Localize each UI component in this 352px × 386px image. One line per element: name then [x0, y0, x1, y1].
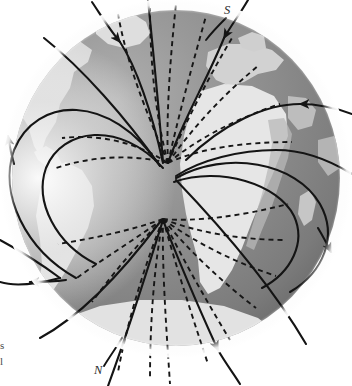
south-pole-label: S [224, 4, 230, 17]
magnetic-field-figure: S N s l [0, 0, 352, 386]
solid-field-line [218, 350, 240, 384]
caption-fragment: s l [0, 338, 4, 370]
globe-diagram-svg [0, 0, 352, 386]
globe-outer-halo-wash [0, 0, 352, 358]
north-pole-label: N [94, 364, 102, 377]
